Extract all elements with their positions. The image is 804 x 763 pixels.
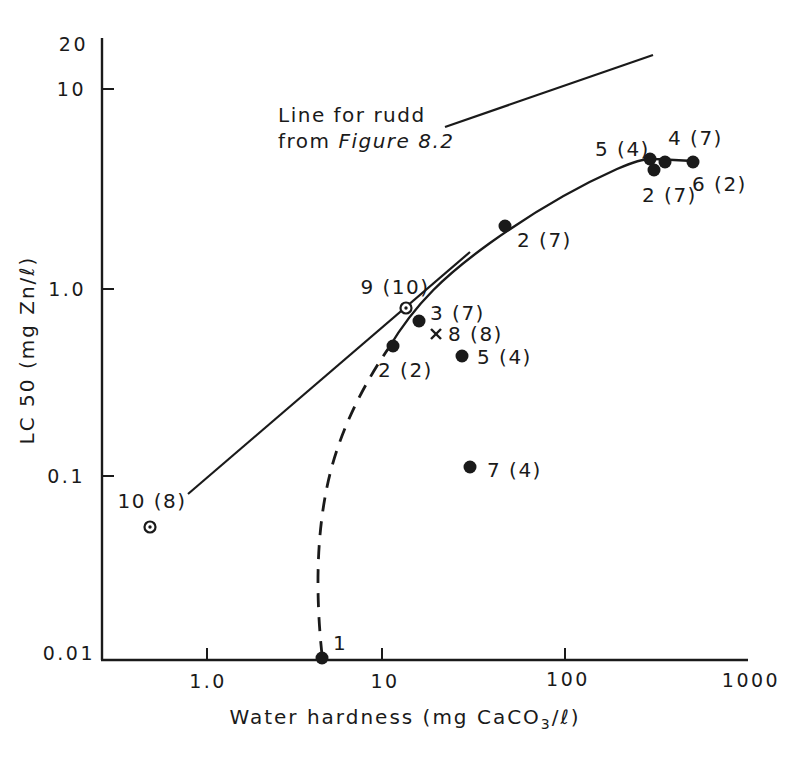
point-marker-2-2 <box>387 340 400 353</box>
point-label-2-7-cluster: 2 (7) <box>642 183 697 207</box>
point-marker-3-7 <box>413 315 426 328</box>
annotation-line1: Line for rudd <box>278 103 426 127</box>
point-marker-8-8-x-cross <box>431 329 441 339</box>
point-label-6-2: 6 (2) <box>692 172 747 196</box>
point-marker-2-7-mid <box>499 220 512 233</box>
y-axis-title: LC 50 (mg Zn/ℓ) <box>15 256 39 445</box>
annotation-line2-italic: Figure 8.2 <box>338 129 454 153</box>
point-label-1: 1 <box>333 631 347 655</box>
log-log-scatter-figure: 20 10 1.0 0.1 0.01 1.0 10 100 1000 LC 50… <box>0 0 804 763</box>
point-marker-5-4-mid <box>456 350 469 363</box>
point-marker-6-2 <box>687 156 700 169</box>
point-label-7-4: 7 (4) <box>487 458 542 482</box>
x-axis-title-subscript: 3 <box>541 716 552 732</box>
data-point-labels: 10 (8) 1 2 (2) 9 (10) 3 (7) 8 (8) 5 (4) … <box>117 126 746 655</box>
y-tick-label-20: 20 <box>59 33 88 55</box>
y-tick-label-1-0: 1.0 <box>48 278 86 300</box>
y-tick-label-0-01: 0.01 <box>43 642 95 664</box>
y-tick-label-0-1: 0.1 <box>47 465 85 487</box>
chart-canvas: 20 10 1.0 0.1 0.01 1.0 10 100 1000 LC 50… <box>0 0 804 763</box>
data-point-markers <box>145 153 700 665</box>
x-tick-label-1000: 1000 <box>722 669 780 691</box>
point-marker-7-4 <box>464 461 477 474</box>
y-tick-label-10: 10 <box>57 78 86 100</box>
x-tick-label-10: 10 <box>370 670 399 692</box>
fitted-curve-dashed <box>318 349 388 655</box>
rudd-reference-line <box>445 55 653 127</box>
x-tick-label-100: 100 <box>546 668 590 690</box>
x-tick-label-1-0: 1.0 <box>189 670 227 692</box>
point-label-5-4-mid: 5 (4) <box>477 345 532 369</box>
point-label-2-2: 2 (2) <box>378 358 433 382</box>
point-marker-4-7 <box>659 156 672 169</box>
point-label-8-8: 8 (8) <box>448 322 503 346</box>
point-label-2-7-mid: 2 (7) <box>517 228 572 252</box>
annotation-line2: from Figure 8.2 <box>278 129 455 153</box>
x-axis-title-pre: Water hardness (mg CaCO <box>229 705 540 729</box>
annotation-line2-pre: from <box>278 129 338 153</box>
point-marker-9-10-center-dot <box>404 306 407 309</box>
x-axis-title: Water hardness (mg CaCO3/ℓ) <box>229 705 580 732</box>
point-marker-10-8-center-dot <box>148 525 151 528</box>
point-label-9-10: 9 (10) <box>360 275 429 299</box>
point-marker-1 <box>316 652 329 665</box>
x-axis-title-post: /ℓ) <box>552 705 581 729</box>
point-marker-2-7-cluster <box>648 164 661 177</box>
point-label-10-8: 10 (8) <box>117 489 186 513</box>
point-label-4-7: 4 (7) <box>668 126 723 150</box>
point-label-5-4-cluster: 5 (4) <box>595 137 650 161</box>
